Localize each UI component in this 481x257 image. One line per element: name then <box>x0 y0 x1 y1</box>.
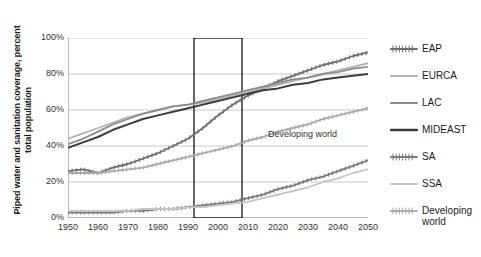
legend-swatch-icon <box>390 124 418 136</box>
legend-label: Developing world <box>422 205 472 227</box>
highlight-box <box>194 38 242 218</box>
series-ssa <box>68 169 368 210</box>
legend-item-developing-world[interactable]: Developing world <box>390 205 472 219</box>
y-axis-tick-label: 100% <box>30 33 64 42</box>
y-axis-title-line1: Piped water and sanitation coverage, per… <box>12 25 23 214</box>
legend-label: EURCA <box>422 70 457 81</box>
legend-swatch-icon <box>390 43 418 55</box>
x-axis-tick-labels: 1950196019701980199020002010202020302040… <box>68 222 368 236</box>
series-developing-world <box>68 107 368 176</box>
y-axis-tick-label: 20% <box>30 177 64 186</box>
legend-swatch-icon <box>390 97 418 109</box>
series-line <box>68 108 368 173</box>
legend-item-sa[interactable]: SA <box>390 151 435 165</box>
figure-caption <box>8 251 388 257</box>
legend-item-mideast[interactable]: MIDEAST <box>390 124 466 138</box>
legend-swatch-icon <box>390 151 418 163</box>
annotation-developing-world: Developing world <box>268 129 337 139</box>
legend-item-eap[interactable]: EAP <box>390 43 442 57</box>
legend-label: SA <box>422 151 435 162</box>
legend-item-ssa[interactable]: SSA <box>390 178 442 192</box>
series-line <box>68 52 368 173</box>
plot-svg <box>68 38 368 218</box>
legend-item-lac[interactable]: LAC <box>390 97 441 111</box>
legend-swatch-icon <box>390 205 418 217</box>
y-axis-tick-labels: 0%20%40%60%80%100% <box>28 38 64 218</box>
series-eap <box>68 51 368 175</box>
plot-area: Developing world <box>68 38 368 218</box>
y-axis-tick-label: 40% <box>30 141 64 150</box>
legend-swatch-icon <box>390 70 418 82</box>
legend-label: SSA <box>422 178 442 189</box>
series-markers <box>68 51 366 175</box>
y-axis-tick-label: 80% <box>30 69 64 78</box>
legend-label: MIDEAST <box>422 124 466 135</box>
y-axis-tick-label: 60% <box>30 105 64 114</box>
legend-swatch-icon <box>390 178 418 190</box>
chart-figure: Piped water and sanitation coverage, per… <box>0 0 481 257</box>
y-axis-tick-label: 0% <box>30 213 64 222</box>
legend-label: EAP <box>422 43 442 54</box>
legend-label: LAC <box>422 97 441 108</box>
series-line <box>68 169 368 210</box>
x-axis-tick-label: 2050 <box>348 222 388 233</box>
legend-item-eurca[interactable]: EURCA <box>390 70 457 84</box>
chart-legend: EAPEURCALACMIDEASTSASSADeveloping world <box>390 40 481 235</box>
